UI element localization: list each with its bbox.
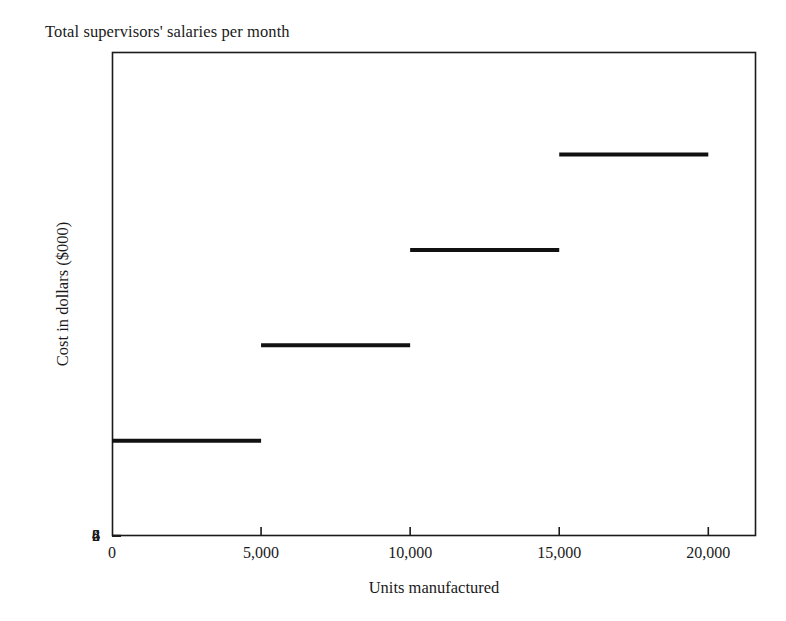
x-tick-label: 15,000 <box>537 544 581 562</box>
x-tick-label: 5,000 <box>243 544 279 562</box>
chart-figure: Total supervisors' salaries per month Co… <box>0 0 786 621</box>
plot-area <box>0 0 786 621</box>
x-tick-label: 0 <box>108 544 116 562</box>
y-tick-label: 8 <box>92 527 100 545</box>
x-tick-label: 10,000 <box>388 544 432 562</box>
step-function-series <box>112 155 708 441</box>
plot-frame-border <box>113 53 756 536</box>
x-tick-label: 20,000 <box>686 544 730 562</box>
x-axis-ticks <box>261 527 708 536</box>
